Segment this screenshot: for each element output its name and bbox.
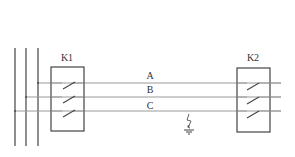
- k2-contact-b-icon: [247, 97, 259, 104]
- switch-k1-box: [51, 67, 84, 131]
- phase-label-b: B: [147, 84, 154, 95]
- switch-k2-label: K2: [247, 52, 259, 63]
- junction-a: [37, 82, 39, 84]
- switch-k2: K2: [237, 52, 281, 132]
- k2-contact-a-icon: [247, 83, 259, 90]
- phase-label-a: A: [146, 70, 154, 81]
- ground-icon: [184, 114, 194, 134]
- phase-label-c: C: [147, 100, 154, 111]
- circuit-diagram: K1 K2 A B C: [0, 0, 295, 157]
- k2-contact-c-icon: [247, 111, 259, 118]
- switch-k1: K1: [51, 52, 84, 131]
- fault-arrow-icon: [187, 125, 190, 129]
- junction-c: [14, 110, 16, 112]
- phase-labels: A B C: [146, 70, 154, 111]
- switch-k1-label: K1: [61, 52, 73, 63]
- junction-b: [25, 96, 27, 98]
